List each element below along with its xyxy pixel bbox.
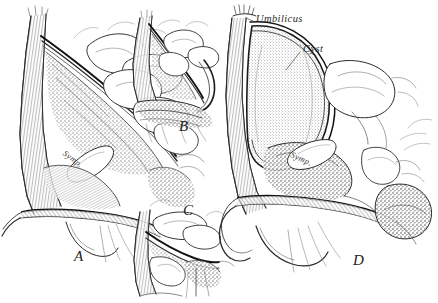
panel-letter-b: B <box>179 119 188 134</box>
figure-caption <box>4 295 434 303</box>
panel-d-artwork <box>219 5 432 272</box>
panel-b-artwork <box>133 10 219 144</box>
panel-letter-a: A <box>74 249 83 264</box>
panel-letter-d: D <box>353 253 364 268</box>
label-cyst: Cyst <box>303 44 323 55</box>
anatomical-figure: Umbilicus Cyst Symp. Symp. A B C D <box>0 0 438 303</box>
panel-letter-c: C <box>183 203 193 218</box>
label-umbilicus: Umbilicus <box>256 14 303 25</box>
